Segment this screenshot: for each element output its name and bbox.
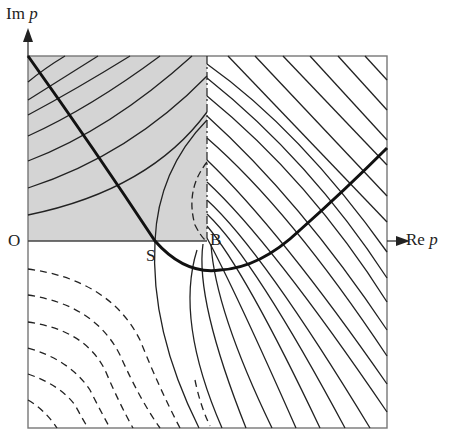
origin-label: O <box>8 231 20 251</box>
lower-left-dashed-contours <box>28 269 210 428</box>
imag-axis-label-prefix: Im <box>6 4 25 23</box>
real-axis-label-prefix: Re <box>406 230 425 249</box>
imag-axis-arrow-icon <box>23 28 33 42</box>
branch-point-label: B <box>210 230 221 250</box>
real-axis-label: Re p <box>406 230 438 250</box>
imag-axis-label-var: p <box>29 4 38 23</box>
saddle-point-label: S <box>146 246 155 266</box>
imag-axis-label: Im p <box>6 4 38 24</box>
contour-diagram <box>0 0 467 439</box>
real-axis-label-var: p <box>429 230 438 249</box>
